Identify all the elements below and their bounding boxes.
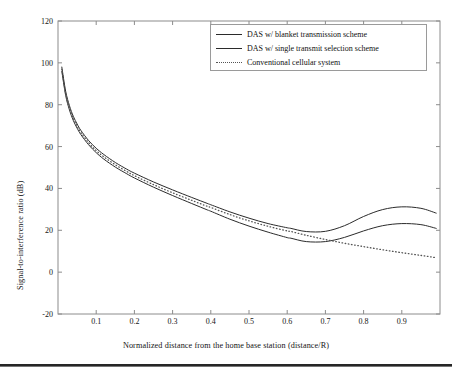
x-tick-label: 0.8 xyxy=(359,317,369,326)
footer-rule-light xyxy=(0,366,452,367)
legend-label-single-transmit: DAS w/ single transmit selection scheme xyxy=(247,44,379,54)
legend-swatch-solid-icon xyxy=(216,44,242,54)
series-path-2 xyxy=(62,69,436,258)
x-tick-label: 0.7 xyxy=(320,317,330,326)
x-tick-label: 0.2 xyxy=(129,317,139,326)
series-path-1 xyxy=(62,71,436,242)
legend-swatch-solid-icon xyxy=(216,30,242,40)
data-curves xyxy=(62,67,436,258)
legend-label-conventional: Conventional cellular system xyxy=(247,58,340,68)
x-axis-title: Normalized distance from the home base s… xyxy=(0,341,452,350)
y-tick-label: -20 xyxy=(13,310,53,319)
x-tick-label: 0.4 xyxy=(206,317,216,326)
figure-container: DAS w/ blanket transmission scheme DAS w… xyxy=(0,0,452,370)
legend-item-single-transmit: DAS w/ single transmit selection scheme xyxy=(211,42,426,56)
series-path-0 xyxy=(62,67,436,232)
y-tick-label: 100 xyxy=(13,58,53,67)
y-tick-label: 20 xyxy=(13,226,53,235)
x-tick-label: 0.3 xyxy=(168,317,178,326)
x-tick-label: 0.1 xyxy=(91,317,101,326)
y-tick-label: 120 xyxy=(13,17,53,26)
x-tick-label: 0.6 xyxy=(282,317,292,326)
x-tick-label: 0.9 xyxy=(397,317,407,326)
legend-item-conventional: Conventional cellular system xyxy=(211,56,426,70)
legend-label-blanket: DAS w/ blanket transmission scheme xyxy=(247,30,367,40)
y-tick-label: 60 xyxy=(13,142,53,151)
x-tick-label: 0.5 xyxy=(244,317,254,326)
y-tick-label: 0 xyxy=(13,268,53,277)
legend-swatch-dotted-icon xyxy=(216,58,242,68)
y-tick-label: 40 xyxy=(13,184,53,193)
legend: DAS w/ blanket transmission scheme DAS w… xyxy=(210,24,427,71)
y-tick-label: 80 xyxy=(13,100,53,109)
legend-item-blanket: DAS w/ blanket transmission scheme xyxy=(211,28,426,42)
